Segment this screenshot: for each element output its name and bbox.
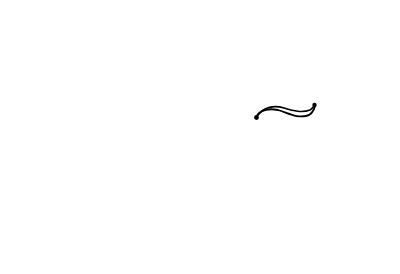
blank-canvas	[0, 0, 400, 274]
calligraphic-swash-icon	[250, 98, 320, 124]
